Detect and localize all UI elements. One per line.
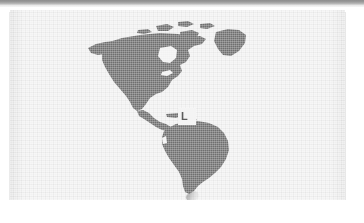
- region-arctic-island-d: [137, 29, 152, 34]
- region-greenland: [214, 29, 246, 56]
- region-arctic-island-c: [200, 23, 215, 29]
- region-arctic-island-b: [178, 21, 194, 27]
- region-north-america: [102, 33, 206, 111]
- region-arctic-island-a: [156, 24, 174, 31]
- panel-rule-right: [345, 12, 346, 200]
- americas-map: [10, 10, 345, 200]
- region-central-america: [137, 110, 171, 131]
- page-bottom-margin: [0, 200, 364, 223]
- region-south-america: [162, 121, 229, 194]
- location-marker-glyph: L: [181, 111, 187, 122]
- page-edge-band-shadow: [0, 5, 364, 7]
